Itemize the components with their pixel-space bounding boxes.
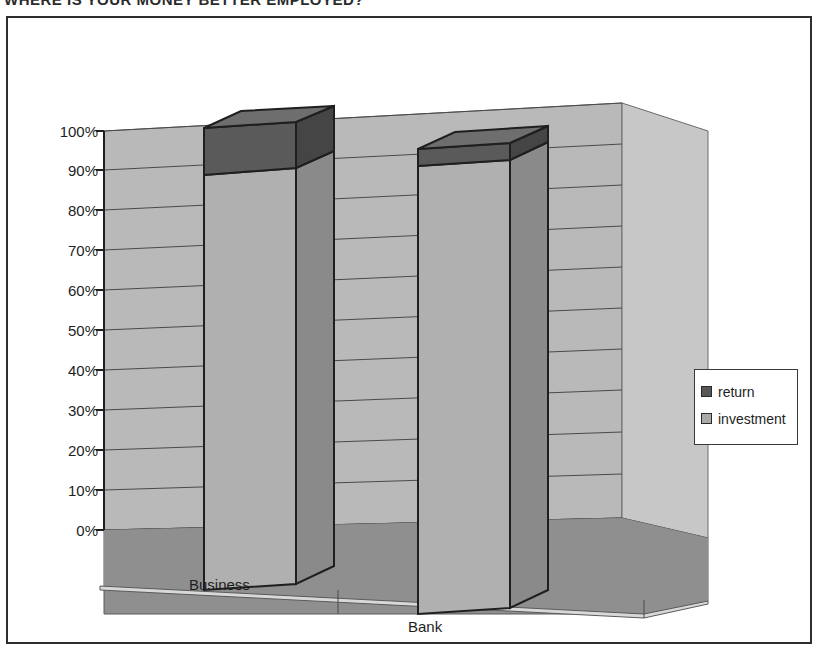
x-axis-label-bank: Bank	[408, 618, 442, 635]
legend-item-investment[interactable]: investment	[701, 405, 797, 432]
plot-side-wall	[622, 103, 708, 538]
legend-item-return[interactable]: return	[701, 378, 797, 405]
y-tick-50: 50%	[40, 322, 98, 339]
bar-business-return-front	[204, 122, 296, 175]
bank-investment-side	[510, 142, 548, 608]
bank-investment-front	[418, 160, 510, 614]
bar-business-investment-side	[296, 151, 334, 584]
legend-label-investment: investment	[718, 411, 786, 427]
y-tick-10: 10%	[40, 482, 98, 499]
bar-bank	[418, 126, 548, 614]
y-tick-30: 30%	[40, 402, 98, 419]
x-axis-label-business: Business	[189, 576, 250, 593]
chart-plot-area	[8, 18, 814, 646]
bar-business-investment-front	[204, 168, 296, 590]
y-tick-0: 0%	[40, 522, 98, 539]
y-tick-20: 20%	[40, 442, 98, 459]
y-tick-60: 60%	[40, 282, 98, 299]
bar-business	[204, 106, 334, 590]
y-tick-70: 70%	[40, 242, 98, 259]
legend-label-return: return	[718, 384, 755, 400]
legend-swatch-return-icon	[701, 386, 712, 397]
y-axis-labels: 100% 90% 80% 70% 60% 50% 40% 30% 20% 10%…	[28, 18, 98, 646]
chart-frame: 100% 90% 80% 70% 60% 50% 40% 30% 20% 10%…	[6, 16, 812, 644]
y-tick-90: 90%	[40, 162, 98, 179]
legend-swatch-investment-icon	[701, 413, 712, 424]
y-tick-100: 100%	[40, 123, 98, 140]
y-tick-80: 80%	[40, 202, 98, 219]
chart-legend: return investment	[694, 369, 798, 445]
y-tick-40: 40%	[40, 362, 98, 379]
page-title: WHERE IS YOUR MONEY BETTER EMPLOYED?	[4, 0, 364, 8]
chart-3d-svg	[8, 18, 814, 646]
